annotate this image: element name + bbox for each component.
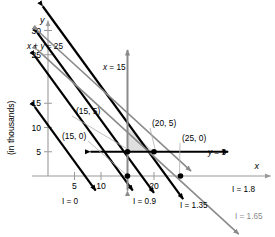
point-marker <box>178 173 184 179</box>
point-label-15-5: (15, 5) <box>76 106 100 116</box>
line-label: I = 0.9 <box>133 197 156 206</box>
line-i-1-65 <box>37 50 238 234</box>
line-label: I = 0 <box>62 197 79 206</box>
line-label: I = 1.8 <box>232 185 255 194</box>
line-label: y = 5 <box>207 148 226 157</box>
y-tick-label: 5 <box>36 147 41 157</box>
line-label: x = 15 <box>102 63 126 72</box>
graph-figure: 51015253051020(15, 5)(20, 5)(25, 0)(15, … <box>0 0 275 237</box>
line-label: I = 1.65 <box>235 212 263 221</box>
point-marker <box>125 149 131 155</box>
x-axis-name: x <box>254 161 260 171</box>
line-i-1-8 <box>43 6 183 199</box>
line-label: x + y = 25 <box>26 42 63 51</box>
line-label: I = 1.35 <box>180 201 208 210</box>
y-tick-label: 15 <box>31 98 41 108</box>
point-marker <box>151 149 157 155</box>
point-label-20-5: (20, 5) <box>152 118 176 128</box>
y-tick-label: 30 <box>31 26 41 36</box>
line-i-0 <box>35 107 96 191</box>
point-label-15-0: (15, 0) <box>62 131 86 141</box>
point-label-25-0: (25, 0) <box>182 133 206 143</box>
y-axis-description: (in thousands) <box>6 100 16 155</box>
x-tick-label: 10 <box>96 181 106 191</box>
y-axis-name: y <box>39 15 45 25</box>
x-tick-label: 5 <box>72 181 77 191</box>
y-tick-label: 10 <box>31 123 41 133</box>
line-x-y-25 <box>37 31 191 172</box>
point-marker <box>125 173 131 179</box>
linear-programming-graph: 51015253051020(15, 5)(20, 5)(25, 0)(15, … <box>0 0 275 237</box>
callout-leader <box>180 143 181 173</box>
